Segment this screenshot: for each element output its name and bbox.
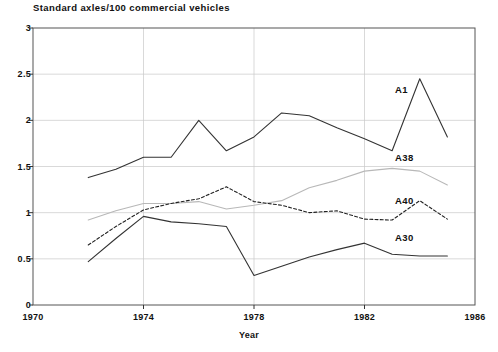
- series-line-a1: [88, 79, 447, 178]
- plot-area: [0, 0, 498, 352]
- x-axis-title: Year: [0, 330, 498, 340]
- series-label-a30: A30: [395, 232, 414, 243]
- chart-container: Standard axles/100 commercial vehicles 0…: [0, 0, 498, 352]
- series-line-a40: [88, 187, 447, 245]
- series-line-a30: [88, 216, 447, 275]
- series-label-a40: A40: [395, 195, 414, 206]
- series-label-a38: A38: [395, 152, 414, 163]
- series-label-a1: A1: [395, 84, 408, 95]
- series-line-a38: [88, 168, 447, 220]
